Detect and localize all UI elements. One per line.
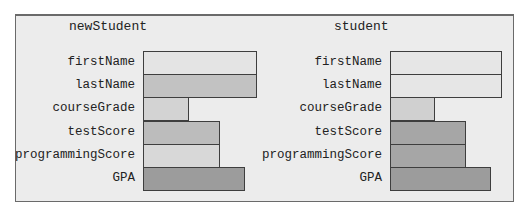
field-memory-box (390, 51, 502, 75)
field-memory-box (390, 121, 466, 145)
field-label: courseGrade (0, 97, 135, 120)
field-label: testScore (0, 121, 135, 144)
field-memory-box (390, 144, 466, 168)
field-label: GPA (202, 167, 382, 190)
field-label: programmingScore (0, 144, 135, 167)
field-memory-box (390, 167, 491, 191)
field-memory-box (143, 97, 189, 121)
field-label: testScore (202, 121, 382, 144)
field-memory-box (390, 74, 502, 98)
field-label: lastName (0, 74, 135, 97)
field-label: GPA (0, 167, 135, 190)
object-name-newStudent: newStudent (69, 19, 147, 34)
field-label: courseGrade (202, 97, 382, 120)
field-memory-box (390, 97, 435, 121)
field-label: programmingScore (202, 144, 382, 167)
field-label: firstName (202, 51, 382, 74)
field-label: lastName (202, 74, 382, 97)
field-label: firstName (0, 51, 135, 74)
object-name-student: student (334, 19, 389, 34)
